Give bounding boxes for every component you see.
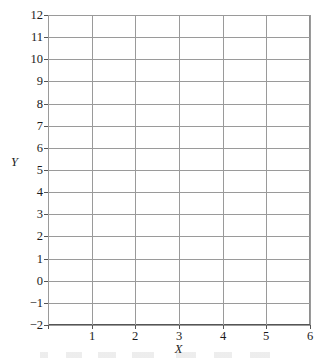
x-axis-tick [48,325,49,329]
y-axis-tick-label: 5 [37,164,43,177]
gridline-vertical [48,15,49,325]
y-axis-tick-label: −1 [30,297,43,310]
x-axis-tick-label: 1 [89,330,95,343]
gridline-vertical [135,15,136,325]
y-axis-tick-label: 2 [37,230,43,243]
y-axis-tick-label: 9 [37,75,43,88]
x-axis-tick-label: 5 [263,330,269,343]
x-axis-tick-label: 4 [220,330,226,343]
y-axis-tick-label: 10 [31,53,44,66]
y-axis-tick-label: 3 [37,208,43,221]
graph-figure: Y −2−10123456789101112 123456 X [0,0,331,361]
gridline-vertical [92,15,93,325]
x-axis-tick-label: 2 [132,330,138,343]
y-axis-tick-label: 1 [37,253,43,266]
x-axis-tick-label: 6 [307,330,313,343]
y-axis-tick-label: −2 [30,319,43,332]
y-axis-tick-label: 11 [31,31,43,44]
gridline-vertical [223,15,224,325]
y-axis-tick-label: 6 [37,142,43,155]
y-axis-tick-label: 0 [37,275,43,288]
gridline-vertical [310,15,311,325]
y-axis-tick-labels: −2−10123456789101112 [14,15,43,325]
scan-bleed-artifact [36,352,276,358]
y-axis-tick-label: 7 [37,120,43,133]
y-axis-tick-label: 4 [37,186,43,199]
gridline-vertical [179,15,180,325]
gridline-vertical [266,15,267,325]
x-axis-tick-label: 3 [176,330,182,343]
y-axis-tick-label: 12 [31,9,44,22]
plot-area[interactable] [48,15,310,325]
y-axis-tick-label: 8 [37,98,43,111]
